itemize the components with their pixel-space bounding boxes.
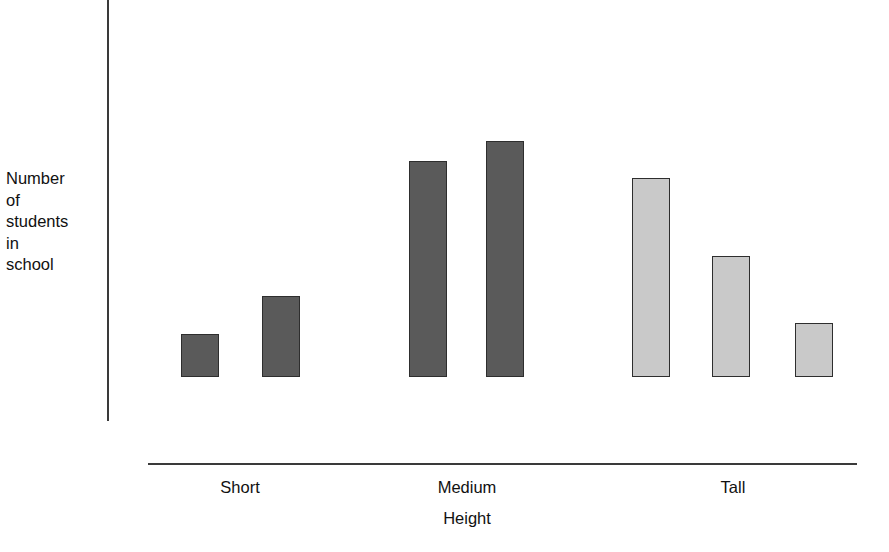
bar-tall-7 — [795, 323, 833, 377]
plot-area — [0, 0, 889, 465]
bar-chart-figure: Number of students in school Height Shor… — [0, 0, 889, 552]
x-axis-label: Height — [443, 508, 491, 528]
bar-medium-4 — [486, 141, 524, 377]
bar-medium-3 — [409, 161, 447, 377]
bar-tall-6 — [712, 256, 750, 377]
x-tick-label-short: Short — [220, 477, 259, 497]
x-tick-label-tall: Tall — [721, 477, 746, 497]
x-tick-label-medium: Medium — [438, 477, 497, 497]
bar-short-2 — [262, 296, 300, 377]
x-axis-line — [148, 463, 857, 465]
bar-short-1 — [181, 334, 219, 377]
bar-tall-5 — [632, 178, 670, 377]
